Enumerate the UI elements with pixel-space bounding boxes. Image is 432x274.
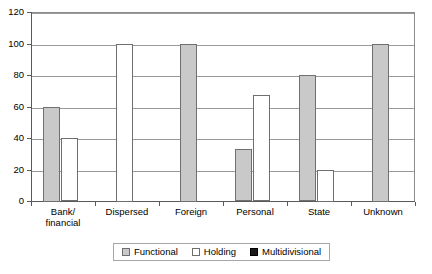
x-axis-label-line: State [287,206,351,217]
y-tick [27,170,31,171]
x-axis-label-line: Foreign [159,206,223,217]
x-axis-label: Bank/financial [31,206,95,228]
y-axis-line [31,12,32,202]
bar-chart: 020406080100120 Bank/financialDispersedF… [0,0,432,274]
x-axis-label-line: Personal [223,206,287,217]
bar-functional [299,75,316,201]
x-axis-label-line: Dispersed [95,206,159,217]
bar-functional [372,44,389,202]
x-tick [415,202,416,206]
gridline [32,108,414,109]
x-axis-label-line: Bank/ [31,206,95,217]
y-tick-label: 60 [0,102,24,112]
gridline [32,171,414,172]
x-axis-label: State [287,206,351,217]
bar-holding [61,138,78,201]
bar-functional [43,107,60,202]
x-axis-label: Foreign [159,206,223,217]
chart-legend: FunctionalHoldingMultidivisional [113,243,330,261]
legend-label: Multidivisional [262,247,321,257]
legend-label: Holding [204,247,236,257]
x-axis-label: Personal [223,206,287,217]
y-tick [27,107,31,108]
gridline [32,76,414,77]
legend-swatch-holding-icon [192,248,200,256]
x-axis-label-line: financial [31,217,95,228]
legend-item-multidivisional[interactable]: Multidivisional [250,247,321,257]
y-tick-label: 80 [0,70,24,80]
y-tick [27,12,31,13]
plot-area [31,12,415,202]
legend-item-functional[interactable]: Functional [122,247,178,257]
legend-item-holding[interactable]: Holding [192,247,236,257]
y-tick-label: 120 [0,7,24,17]
x-axis-label: Unknown [351,206,415,217]
gridline [32,139,414,140]
y-tick-label: 40 [0,133,24,143]
x-axis-label: Dispersed [95,206,159,217]
bar-holding [317,170,334,202]
y-tick-label: 100 [0,39,24,49]
x-axis-label-line: Unknown [351,206,415,217]
bar-holding [116,44,133,202]
legend-label: Functional [134,247,178,257]
y-tick [27,138,31,139]
y-tick [27,75,31,76]
gridline [32,45,414,46]
legend-swatch-functional-icon [122,248,130,256]
y-tick [27,44,31,45]
y-tick-label: 0 [0,196,24,206]
bar-holding [253,95,270,201]
bar-functional [235,149,252,201]
gridline [32,13,414,14]
legend-swatch-multidivisional-icon [250,248,258,256]
bar-functional [180,44,197,202]
y-tick-label: 20 [0,165,24,175]
